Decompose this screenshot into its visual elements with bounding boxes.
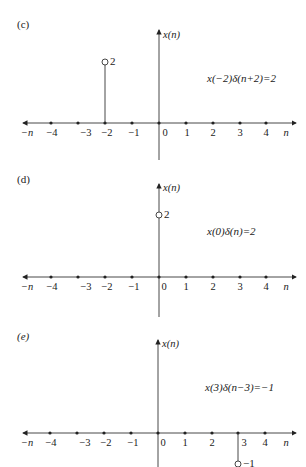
x-axis-label: n — [283, 437, 288, 448]
y-axis-label: x(n) — [162, 338, 179, 349]
tick-label: −1 — [128, 281, 139, 292]
tick-label: −2 — [101, 281, 112, 292]
plot-graphics — [0, 0, 306, 467]
impulse-marker-icon — [156, 212, 162, 218]
x-axis-label: n — [283, 127, 288, 138]
tick-label: −2 — [100, 437, 111, 448]
tick-label: 0 — [160, 437, 165, 448]
tick-label: 3 — [241, 437, 246, 448]
tick-label: 2 — [209, 437, 214, 448]
x-axis-left-label: −n — [21, 437, 33, 448]
y-axis-label: x(n) — [163, 182, 180, 193]
tick-label: −4 — [46, 281, 57, 292]
tick-label: 2 — [210, 127, 215, 138]
tick-label: 0 — [161, 281, 166, 292]
tick-label: −3 — [79, 437, 90, 448]
tick-label: −2 — [101, 127, 112, 138]
tick-label: 3 — [237, 281, 242, 292]
tick-label: 1 — [183, 281, 188, 292]
tick-label: −1 — [127, 437, 138, 448]
tick-label: 0 — [162, 127, 167, 138]
tick-label: 1 — [182, 437, 187, 448]
panel-d-graphics — [23, 184, 296, 317]
panel-label: (c) — [17, 18, 29, 30]
impulse-marker-icon — [235, 461, 241, 467]
x-axis-label: n — [283, 281, 288, 292]
tick-label: 4 — [263, 127, 268, 138]
tick-label: −3 — [80, 281, 91, 292]
impulse-value-label: 2 — [110, 55, 116, 67]
tick-label: 4 — [262, 437, 267, 448]
equation: x(3)δ(n−3)=−1 — [205, 381, 274, 393]
tick-label: −3 — [80, 127, 91, 138]
tick-label: −1 — [128, 127, 139, 138]
impulse-value-label: 2 — [164, 208, 170, 220]
panel-label: (e) — [17, 330, 29, 342]
impulse-marker-icon — [102, 59, 108, 65]
tick-label: 4 — [263, 281, 268, 292]
impulse-value-label: −1 — [243, 457, 255, 467]
tick-label: 3 — [237, 127, 242, 138]
tick-label: 1 — [184, 127, 189, 138]
equation: x(−2)δ(n+2)=2 — [207, 72, 276, 84]
panel-label: (d) — [17, 173, 30, 185]
equation: x(0)δ(n)=2 — [207, 225, 256, 237]
panel-c-graphics — [23, 30, 296, 160]
tick-label: −4 — [45, 437, 56, 448]
x-axis-left-label: −n — [21, 127, 33, 138]
tick-label: 2 — [210, 281, 215, 292]
tick-label: −4 — [46, 127, 57, 138]
y-axis-label: x(n) — [163, 29, 180, 40]
x-axis-left-label: −n — [21, 281, 33, 292]
